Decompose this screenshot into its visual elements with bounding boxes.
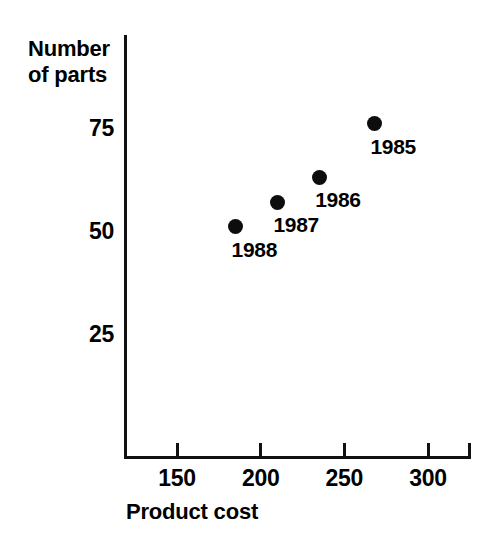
x-axis-tick-250	[343, 443, 346, 457]
x-axis-tick-150	[176, 443, 179, 457]
data-point-label-1987: 1987	[273, 213, 319, 237]
x-axis-start-cap	[124, 443, 127, 457]
data-point-1985	[367, 116, 382, 131]
data-point-1986	[312, 170, 327, 185]
data-point-label-1988: 1988	[232, 238, 278, 262]
scatter-chart: 150200250300 255075 Number of parts Prod…	[0, 0, 500, 537]
y-axis-tick-label-25: 25	[54, 322, 114, 346]
data-point-label-1986: 1986	[315, 188, 361, 212]
data-point-1988	[228, 219, 243, 234]
y-axis-title-line-1: Number	[28, 36, 124, 62]
x-axis-tick-200	[259, 443, 262, 457]
x-axis-tick-label-200: 200	[226, 464, 296, 492]
y-axis-tick-label-50: 50	[54, 219, 114, 243]
x-axis-tick-label-300: 300	[393, 464, 463, 492]
y-axis-title: Number of parts	[28, 36, 124, 88]
x-axis-tick-label-250: 250	[309, 464, 379, 492]
data-point-label-1985: 1985	[370, 135, 416, 159]
data-point-1987	[270, 195, 285, 210]
x-axis-title: Product cost	[126, 499, 258, 525]
y-axis-tick-label-75: 75	[54, 116, 114, 140]
x-axis-tick-300	[427, 443, 430, 457]
y-axis-line	[124, 35, 127, 459]
x-axis-end-cap	[468, 443, 471, 457]
y-axis-title-line-2: of parts	[28, 62, 124, 88]
x-axis-tick-label-150: 150	[142, 464, 212, 492]
